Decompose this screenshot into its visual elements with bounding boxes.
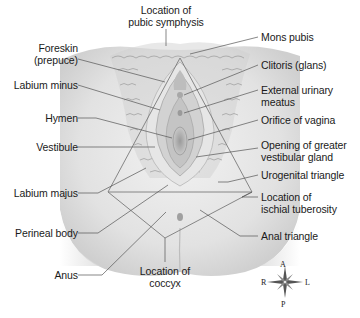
label-text-2: coccyx (130, 277, 200, 289)
label-labium-majus: Labium majus (0, 187, 78, 199)
label-text-2: vestibular gland (261, 151, 347, 163)
label-mons-pubis: Mons pubis (261, 31, 314, 43)
label-labium-minus: Labium minus (0, 79, 78, 91)
label-anus: Anus (0, 269, 78, 281)
label-perineal-body: Perineal body (0, 227, 78, 239)
label-text-2: pubic symphysis (126, 16, 206, 28)
compass-right: R (261, 277, 266, 289)
label-urogenital-triangle: Urogenital triangle (261, 169, 344, 181)
label-vestibule: Vestibule (0, 141, 78, 153)
label-opening-greater-vestibular-gland: Opening of greater vestibular gland (261, 139, 347, 163)
label-text: Location of (261, 191, 337, 203)
clitoris-shape (177, 92, 183, 98)
label-text: Location of (130, 265, 200, 277)
label-coccyx: Location of coccyx (130, 265, 200, 289)
anus-shape (177, 213, 183, 221)
label-pubic-symphysis: Location of pubic symphysis (126, 4, 206, 28)
label-text-2: meatus (261, 96, 333, 108)
vaginal-orifice-shape (173, 127, 187, 155)
label-text: Location of (126, 4, 206, 16)
label-foreskin: Foreskin (prepuce) (6, 42, 78, 66)
label-orifice-of-vagina: Orifice of vagina (261, 114, 335, 126)
label-text: External urinary (261, 84, 333, 96)
label-text-2: (prepuce) (6, 54, 78, 66)
compass-left: L (305, 277, 310, 289)
label-text: Foreskin (6, 42, 78, 54)
label-ischial-tuberosity: Location of ischial tuberosity (261, 191, 337, 215)
label-clitoris: Clitoris (glans) (261, 59, 327, 71)
anatomy-diagram: A P R L Location of pubic symphysis Fore… (0, 0, 360, 318)
label-anal-triangle: Anal triangle (261, 230, 318, 242)
label-text: Opening of greater (261, 139, 347, 151)
label-text-2: ischial tuberosity (261, 203, 337, 215)
compass-anterior: A (280, 259, 286, 271)
compass-posterior: P (281, 299, 285, 311)
label-external-urinary-meatus: External urinary meatus (261, 84, 333, 108)
label-hymen: Hymen (0, 112, 78, 124)
